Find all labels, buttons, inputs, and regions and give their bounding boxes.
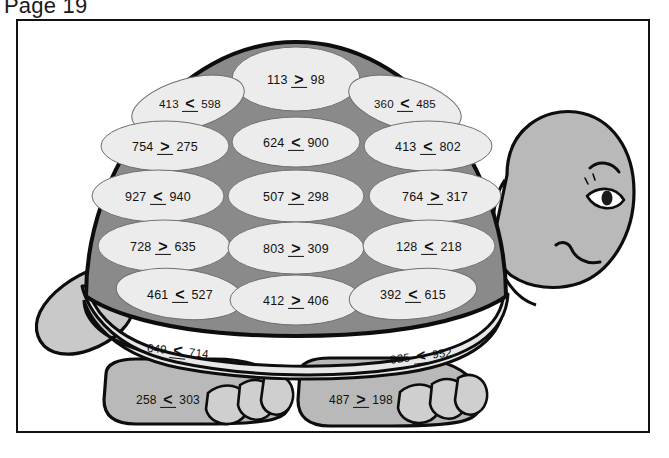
cell-left-value: 624 [263, 136, 284, 150]
cell-left-value: 764 [402, 190, 423, 204]
cell-mid-1: 624 < 900 [263, 134, 329, 150]
cell-left-2: 754 > 275 [132, 138, 198, 154]
cell-left-value: 128 [396, 240, 417, 254]
cell-right-value: 598 [201, 98, 221, 110]
cell-left-value: 649 [146, 342, 167, 356]
cell-left-value: 412 [263, 294, 284, 308]
cell-operator[interactable]: > [155, 239, 171, 255]
cell-left-value: 925 [390, 351, 411, 365]
cell-left-value: 413 [159, 98, 179, 110]
cell-right-value: 615 [424, 288, 445, 302]
cell-operator[interactable]: < [421, 239, 437, 255]
cell-right-value: 218 [440, 240, 461, 254]
cell-right-value: 635 [174, 240, 195, 254]
cell-right-value: 406 [307, 294, 328, 308]
cell-right-5: 392 < 615 [380, 286, 446, 302]
cell-operator[interactable]: < [420, 139, 436, 155]
cell-mid-4: 412 > 406 [263, 292, 329, 308]
cell-left-value: 803 [263, 242, 284, 256]
cell-right-3: 764 > 317 [402, 188, 468, 204]
cell-front-leg: 258 < 303 [136, 391, 200, 407]
worksheet-page: Page 19 [0, 0, 669, 458]
shell-plates [92, 47, 501, 326]
cell-left-value: 113 [267, 73, 288, 87]
cell-left-value: 507 [263, 190, 284, 204]
cell-left-value: 258 [136, 393, 157, 407]
cell-left-value: 927 [125, 190, 146, 204]
cell-operator[interactable]: < [172, 287, 188, 303]
cell-right-value: 952 [431, 346, 452, 360]
cell-right-value: 298 [307, 190, 328, 204]
cell-operator[interactable]: < [150, 189, 166, 205]
cell-operator[interactable]: < [397, 96, 413, 112]
cell-operator[interactable]: < [405, 287, 421, 303]
cell-left-3: 927 < 940 [125, 188, 191, 204]
cell-left-value: 360 [374, 98, 394, 110]
cell-mid-2: 507 > 298 [263, 188, 329, 204]
cell-back-leg: 487 > 198 [329, 391, 393, 407]
cell-operator[interactable]: > [291, 72, 307, 88]
cell-top-1: 113 > 98 [267, 71, 325, 87]
cell-left-value: 461 [147, 288, 168, 302]
cell-right-value: 714 [188, 346, 209, 360]
cell-operator[interactable]: < [169, 342, 186, 360]
cell-right-value: 198 [372, 393, 393, 407]
cell-operator[interactable]: < [160, 392, 176, 408]
cell-right-value: 900 [307, 136, 328, 150]
cell-left-value: 754 [132, 140, 153, 154]
cell-right-value: 303 [179, 393, 200, 407]
cell-right-value: 317 [446, 190, 467, 204]
cell-right-value: 940 [169, 190, 190, 204]
cell-operator[interactable]: > [288, 189, 304, 205]
cell-operator[interactable]: < [412, 347, 429, 365]
cell-left-value: 487 [329, 393, 350, 407]
cell-left-value: 728 [130, 240, 151, 254]
cell-operator[interactable]: > [288, 293, 304, 309]
cell-right-4: 128 < 218 [396, 238, 462, 254]
cell-operator[interactable]: > [353, 392, 369, 408]
cell-left-4: 728 > 635 [130, 238, 196, 254]
cell-right-1: 360 < 485 [374, 95, 436, 111]
cell-right-value: 275 [176, 140, 197, 154]
cell-left-value: 413 [395, 140, 416, 154]
cell-right-value: 527 [191, 288, 212, 302]
cell-left-1: 413 < 598 [159, 95, 221, 111]
cell-mid-3: 803 > 309 [263, 240, 329, 256]
cell-operator[interactable]: < [288, 135, 304, 151]
cell-operator[interactable]: > [157, 139, 173, 155]
cell-right-value: 802 [439, 140, 460, 154]
cell-left-value: 392 [380, 288, 401, 302]
cell-right-value: 98 [311, 73, 325, 87]
turtle-illustration [0, 0, 669, 458]
cell-right-2: 413 < 802 [395, 138, 461, 154]
cell-operator[interactable]: > [427, 189, 443, 205]
cell-operator[interactable]: > [288, 241, 304, 257]
cell-right-value: 485 [416, 98, 436, 110]
cell-operator[interactable]: < [182, 96, 198, 112]
cell-left-5: 461 < 527 [147, 286, 213, 302]
cell-right-value: 309 [307, 242, 328, 256]
